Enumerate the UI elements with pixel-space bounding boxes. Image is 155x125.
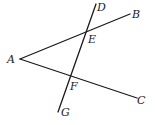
label-b: B [131,8,140,21]
geometry-diagram: A B C D E F G [0,0,155,125]
label-e: E [87,33,96,46]
label-a: A [6,53,15,66]
label-d: D [96,1,106,14]
label-c: C [137,94,146,107]
line-dg [58,4,96,112]
ray-ac [20,59,137,98]
label-f: F [69,80,78,93]
label-g: G [61,106,70,119]
ray-ab [20,14,130,59]
